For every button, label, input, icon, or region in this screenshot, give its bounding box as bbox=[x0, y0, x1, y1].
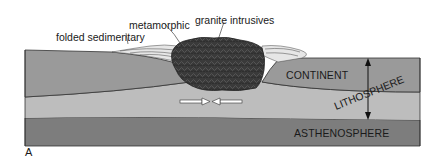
metamorphic-label: metamorphic bbox=[129, 20, 190, 31]
diagram-stage: LITHOSPHERE folded sedimentary metamorph… bbox=[0, 0, 440, 160]
panel-label: A bbox=[25, 146, 32, 158]
asthenosphere-label: ASTHENOSPHERE bbox=[294, 128, 389, 139]
folded-sedimentary-label: folded sedimentary bbox=[56, 32, 145, 43]
granite-intrusives-label: granite intrusives bbox=[195, 15, 274, 26]
continent-label: CONTINENT bbox=[286, 70, 348, 81]
